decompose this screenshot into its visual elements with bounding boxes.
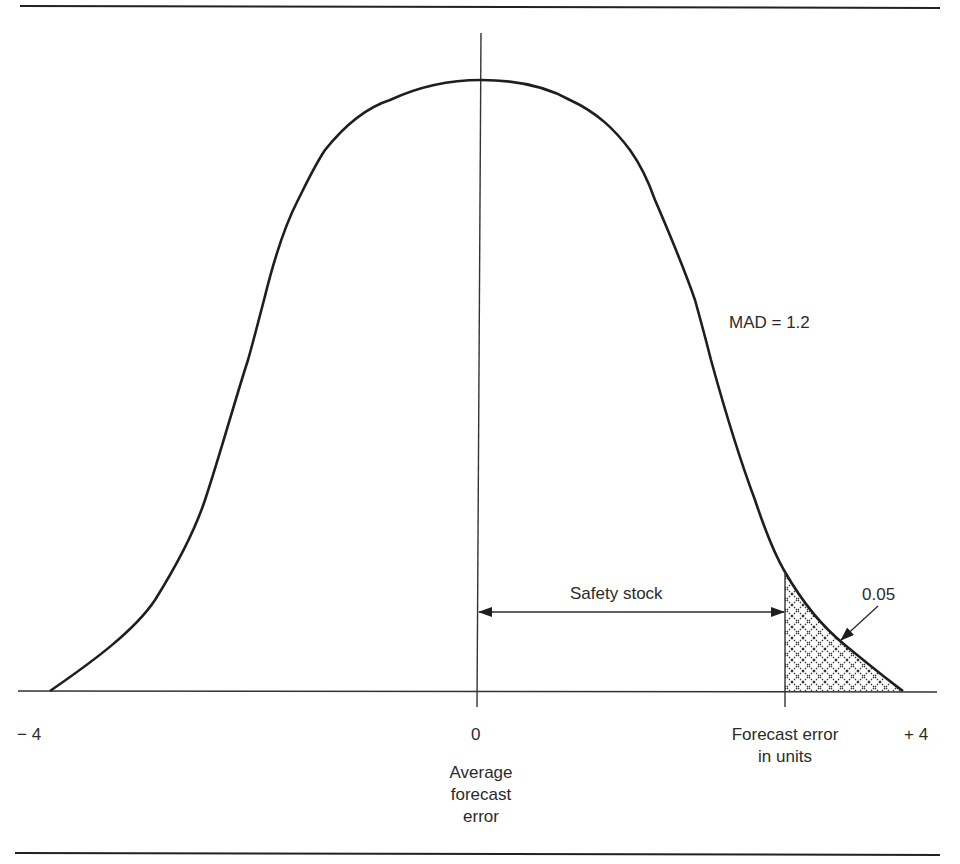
tail-probability-label: 0.05 — [862, 584, 895, 606]
avg-error-line-2: forecast — [426, 784, 536, 806]
safety-stock-label: Safety stock — [570, 583, 663, 605]
mad-label: MAD = 1.2 — [729, 312, 810, 334]
bottom-rule — [15, 853, 940, 855]
mean-axis — [477, 33, 481, 707]
tick-max-label: + 4 — [904, 724, 928, 746]
figure: MAD = 1.2 Safety stock 0.05 − 4 0 + 4 Av… — [0, 0, 960, 864]
forecast-error-line-2: in units — [705, 746, 865, 768]
forecast-error-line-1: Forecast error — [705, 724, 865, 746]
avg-error-line-1: Average — [426, 762, 536, 784]
tail-probability-arrow — [841, 606, 878, 640]
stockout-tail-region — [785, 560, 910, 695]
tick-zero-label: 0 — [471, 724, 480, 746]
tick-min-label: − 4 — [17, 724, 41, 746]
top-rule — [20, 6, 940, 8]
avg-error-line-3: error — [426, 806, 536, 828]
average-forecast-error-label: Average forecast error — [426, 762, 536, 828]
normal-curve — [50, 80, 903, 691]
forecast-error-units-label: Forecast error in units — [705, 724, 865, 768]
